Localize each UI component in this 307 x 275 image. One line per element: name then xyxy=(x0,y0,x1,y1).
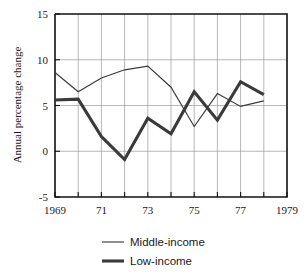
y-axis-tick-label: -5 xyxy=(39,191,49,203)
y-axis-tick-label: 5 xyxy=(43,100,49,112)
legend: Middle-income Low-income xyxy=(102,236,205,267)
x-axis-tick-label: 71 xyxy=(96,204,107,216)
x-axis-tick-label: 73 xyxy=(142,204,154,216)
x-axis-tick-label: 1969 xyxy=(44,204,67,216)
x-axis-tick-label: 1979 xyxy=(276,204,299,216)
x-axis-tick-label: 77 xyxy=(235,204,247,216)
series-group xyxy=(55,66,264,159)
plot-gridlines xyxy=(55,14,287,197)
y-axis-title: Annual percentage change xyxy=(11,47,23,164)
y-axis-tick-label: 0 xyxy=(43,145,49,157)
y-axis-tick-label: 15 xyxy=(37,8,49,20)
x-axis-tick-label: 75 xyxy=(189,204,201,216)
x-axis-tick-labels: 1969717375771979 xyxy=(44,204,299,216)
series-line-low-income xyxy=(55,82,264,160)
chart-container: -5051015 1969717375771979 Annual percent… xyxy=(0,0,307,275)
legend-label-low-income: Low-income xyxy=(130,255,192,267)
y-axis-tick-label: 10 xyxy=(37,54,49,66)
line-chart: -5051015 1969717375771979 Annual percent… xyxy=(0,0,307,275)
y-axis-tick-labels: -5051015 xyxy=(37,8,60,203)
legend-label-middle-income: Middle-income xyxy=(130,236,205,248)
